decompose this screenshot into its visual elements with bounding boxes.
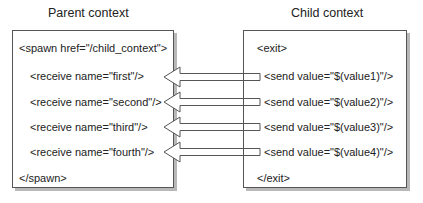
message-arrow-4 — [164, 142, 260, 162]
arrows-layer — [0, 0, 423, 203]
message-arrow-1 — [164, 67, 260, 87]
message-arrow-2 — [164, 92, 260, 112]
message-arrow-3 — [164, 117, 260, 137]
